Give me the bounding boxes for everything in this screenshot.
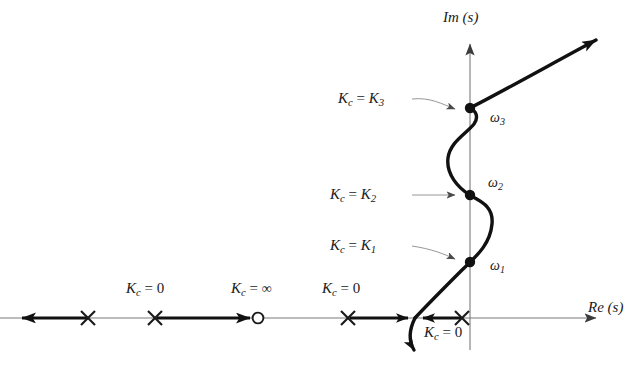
omega-symbol: ω <box>490 110 500 125</box>
real-axis-label-arg: (s) <box>608 299 624 315</box>
gain-value: 0 <box>455 324 463 340</box>
gain-lhs: K <box>231 280 241 296</box>
omega-sub: 3 <box>500 116 505 127</box>
gain-eq: = <box>357 90 365 106</box>
gain-label-kc-zero-left: Kc = 0 <box>126 281 164 298</box>
gain-value: K <box>361 186 371 202</box>
locus-branch-upper-right-departure <box>470 40 596 108</box>
gain-label-kc-zero-mid: Kc = 0 <box>322 281 360 298</box>
gain-lhs: K <box>338 90 348 106</box>
root-locus-canvas <box>0 0 632 368</box>
imaginary-axis-label-main: Im <box>443 9 459 25</box>
gain-value: K <box>361 237 371 253</box>
gain-label-kc-infinity: Kc = ∞ <box>231 281 272 298</box>
gain-eq: = <box>250 280 258 296</box>
omega-symbol: ω <box>490 258 500 273</box>
imaginary-axis-label-arg: (s) <box>463 9 479 25</box>
gain-eq: = <box>349 237 357 253</box>
gain-value: K <box>369 90 379 106</box>
gain-label-kc-k3: Kc = K3 <box>338 91 384 108</box>
gain-value-sub: 2 <box>371 192 376 204</box>
gain-value-sub: 3 <box>379 96 384 108</box>
locus-branch-s-curve <box>415 108 492 318</box>
crossing-label-omega-1: ω1 <box>490 259 505 275</box>
gain-value: 0 <box>157 280 165 296</box>
gain-value: 0 <box>353 280 361 296</box>
gain-lhs: K <box>322 280 332 296</box>
crossing-label-omega-2: ω2 <box>488 176 503 192</box>
real-axis-label-main: Re <box>588 299 604 315</box>
gain-eq: = <box>349 186 357 202</box>
omega-symbol: ω <box>488 175 498 190</box>
locus-branch-downward <box>410 318 415 350</box>
gain-eq: = <box>443 324 451 340</box>
gain-eq: = <box>341 280 349 296</box>
root-locus-figure: Re (s) Im (s) Kc = 0 Kc = ∞ Kc = 0 Kc = … <box>0 0 632 368</box>
gain-lhs: K <box>424 324 434 340</box>
omega-sub: 2 <box>498 181 503 192</box>
crossing-dot-omega-3 <box>465 103 475 113</box>
real-axis-label: Re (s) <box>588 300 623 315</box>
crossing-label-omega-3: ω3 <box>490 111 505 127</box>
gain-lhs: K <box>126 280 136 296</box>
gain-label-kc-zero-breakaway: Kc = 0 <box>424 325 462 342</box>
gain-value-sub: 1 <box>371 243 376 255</box>
leader-line-k3 <box>412 99 455 109</box>
gain-value: ∞ <box>262 280 272 296</box>
zero-marker-1 <box>253 313 264 324</box>
omega-sub: 1 <box>500 264 505 275</box>
gain-lhs: K <box>330 237 340 253</box>
leader-line-k1 <box>412 246 455 259</box>
crossing-dot-omega-1 <box>465 257 475 267</box>
gain-eq: = <box>145 280 153 296</box>
gain-lhs: K <box>330 186 340 202</box>
leader-lines <box>412 99 455 259</box>
gain-label-kc-k1: Kc = K1 <box>330 238 376 255</box>
gain-label-kc-k2: Kc = K2 <box>330 187 376 204</box>
crossing-dot-omega-2 <box>465 190 475 200</box>
imaginary-axis-label: Im (s) <box>443 10 478 25</box>
